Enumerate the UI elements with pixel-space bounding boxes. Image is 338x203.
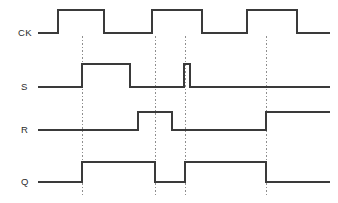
signal-label-s: S (21, 81, 28, 92)
timing-diagram: CKSRQ (0, 0, 338, 203)
signal-label-q: Q (21, 176, 29, 187)
timing-diagram-canvas: CKSRQ (0, 0, 338, 203)
waveform-s (38, 64, 330, 87)
waveform-q (38, 162, 330, 182)
marker-lines-group (82, 36, 266, 196)
waveform-ck (38, 10, 330, 33)
signal-labels-group: CKSRQ (18, 27, 32, 187)
signal-label-r: R (21, 124, 28, 135)
signal-label-ck: CK (18, 27, 32, 38)
